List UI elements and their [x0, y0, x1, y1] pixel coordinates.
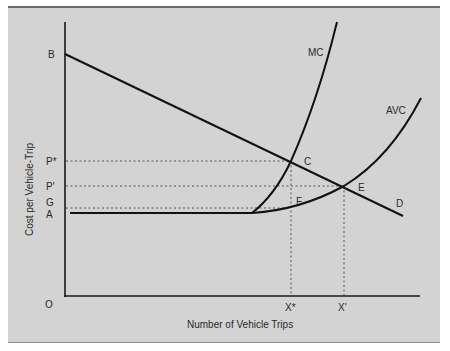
label-A: A	[46, 209, 53, 220]
label-Pprime: P'	[46, 181, 55, 192]
label-D: D	[396, 198, 403, 209]
y-axis-title: Cost per Vehicle-Trip	[24, 143, 35, 236]
mc-curve	[252, 22, 337, 213]
demand-curve	[65, 54, 403, 216]
label-Xprime: X'	[338, 302, 347, 313]
label-B: B	[48, 49, 55, 60]
label-MC: MC	[308, 47, 324, 58]
label-Xstar: X*	[285, 302, 296, 313]
label-Pstar: P*	[46, 156, 57, 167]
label-C: C	[304, 156, 311, 167]
label-AVC: AVC	[386, 105, 406, 116]
guide-lines	[66, 161, 344, 295]
chart-svg: B P* P' G A O X* X' MC AVC C E F D Numbe…	[0, 0, 450, 351]
label-G: G	[46, 197, 54, 208]
label-F: F	[296, 196, 302, 207]
x-axis-title: Number of Vehicle Trips	[187, 319, 293, 330]
label-O: O	[45, 299, 53, 310]
label-E: E	[358, 182, 365, 193]
